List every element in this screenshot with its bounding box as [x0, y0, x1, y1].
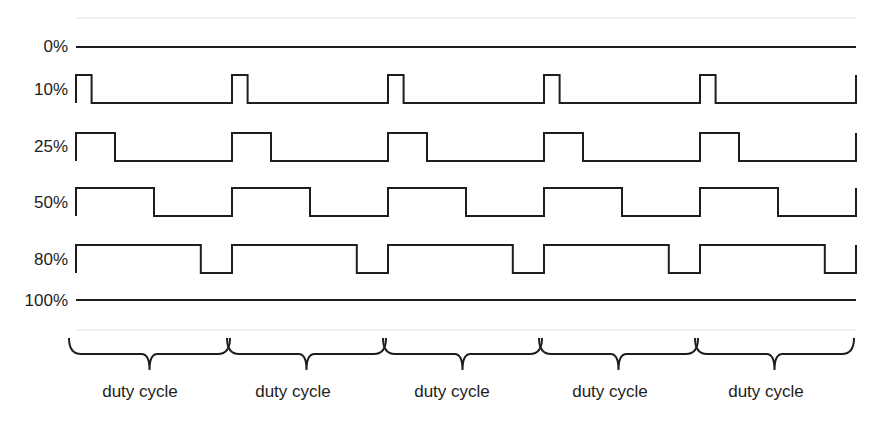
brace-icon-3 [383, 338, 542, 370]
waveforms [76, 47, 856, 300]
duty-cycle-label-2: duty cycle [215, 382, 371, 402]
row-label-50: 50% [0, 193, 68, 213]
row-label-25: 25% [0, 137, 68, 157]
brace-icon-5 [695, 338, 854, 370]
brace-icon-2 [227, 338, 386, 370]
period-braces [69, 338, 854, 370]
row-label-100: 100% [0, 291, 68, 311]
row-label-10: 10% [0, 80, 68, 100]
waveform-10pct [76, 75, 856, 103]
row-label-0: 0% [0, 37, 68, 57]
waveform-50pct [76, 188, 856, 216]
waveform-80pct [76, 245, 856, 273]
duty-cycle-label-3: duty cycle [374, 382, 530, 402]
duty-cycle-label-4: duty cycle [532, 382, 688, 402]
duty-cycle-label-1: duty cycle [62, 382, 218, 402]
row-label-80: 80% [0, 250, 68, 270]
brace-icon-4 [539, 338, 698, 370]
duty-cycle-label-5: duty cycle [688, 382, 844, 402]
brace-icon-1 [69, 338, 230, 370]
waveform-25pct [76, 133, 856, 161]
pwm-waveform-diagram [0, 0, 876, 432]
